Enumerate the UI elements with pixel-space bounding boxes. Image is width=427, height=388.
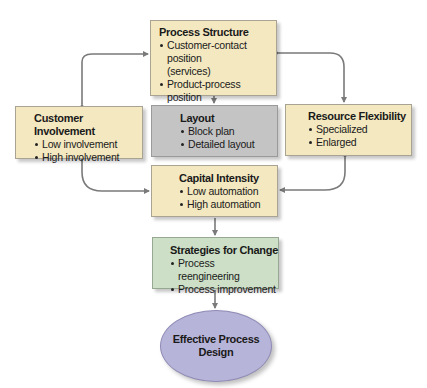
effective-process-design-label: Effective Process Design [173,333,260,359]
effective-process-design-ellipse: Effective Process Design [160,310,272,382]
layout-list: Block plan Detailed layout [180,125,254,151]
resource-flexibility-list: Specialized Enlarged [308,123,406,149]
strategies-for-change-title: Strategies for Change [170,244,278,257]
process-structure-box: Process Structure Customer-contact posit… [150,20,277,96]
list-item: Enlarged [308,136,406,149]
list-item: Detailed layout [180,138,254,151]
list-item-continuation: (services) [159,65,276,78]
customer-involvement-list: Low involvement High involvement [34,138,142,164]
strategies-for-change-box: Strategies for Change Process reengineer… [152,237,279,289]
resource-flexibility-title: Resource Flexibility [308,110,406,123]
customer-involvement-title: Customer Involvement [34,112,142,138]
list-item: High involvement [34,151,142,164]
outcome-line-1: Effective Process [173,333,260,346]
capital-intensity-title: Capital Intensity [179,172,260,185]
arrow-customer-involvement-capital-intensity [82,161,149,191]
list-item: Customer-contact position [159,39,276,65]
list-item: Low involvement [34,138,142,151]
list-item: Specialized [308,123,406,136]
arrow-resource-flexibility-capital-intensity [280,158,345,190]
list-item: Process reengineering [170,257,278,283]
list-item: Block plan [180,125,254,138]
strategies-for-change-list: Process reengineering Process improvemen… [170,257,278,296]
list-item: Product-process position [159,78,276,104]
layout-title: Layout [180,112,254,125]
list-item: High automation [179,198,260,211]
arrow-customer-involvement-process-structure [82,54,148,104]
resource-flexibility-box: Resource Flexibility Specialized Enlarge… [285,104,412,156]
capital-intensity-list: Low automation High automation [179,185,260,211]
customer-involvement-box: Customer Involvement Low involvement Hig… [15,106,143,159]
list-item: Low automation [179,185,260,198]
layout-box: Layout Block plan Detailed layout [151,105,278,157]
process-structure-title: Process Structure [159,26,276,39]
capital-intensity-box: Capital Intensity Low automation High au… [151,165,278,217]
arrow-process-structure-resource-flexibility [279,53,344,102]
list-item: Process improvement [170,283,278,296]
outcome-line-2: Design [173,346,260,359]
